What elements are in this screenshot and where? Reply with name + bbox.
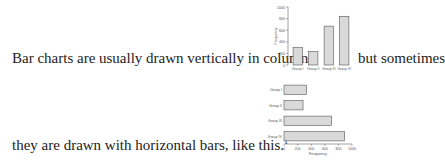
bar	[284, 116, 332, 125]
vertical-bar-chart-svg: 02004006008001000FrequencyGroup IGroup I…	[272, 2, 352, 74]
bar	[284, 101, 303, 110]
y-axis-label: Frequency	[274, 27, 278, 44]
x-tick-label: 200	[295, 147, 301, 151]
x-tick-label: 0	[283, 147, 285, 151]
paragraph-line-1-end: but sometimes	[358, 50, 445, 67]
y-tick-label: Group III	[268, 119, 282, 123]
y-tick-label: 200	[279, 52, 285, 56]
x-tick-label: 1000	[348, 147, 356, 151]
x-tick-label: 800	[335, 147, 341, 151]
x-axis-label: Frequency	[309, 152, 327, 156]
bar	[340, 16, 349, 65]
bar	[284, 132, 345, 141]
x-tick-label: Group IV	[337, 67, 351, 71]
bar	[293, 48, 302, 65]
paragraph-line-2: they are drawn with horizontal bars, lik…	[12, 137, 288, 154]
bar	[284, 85, 306, 94]
y-tick-label: 0	[283, 64, 285, 68]
y-tick-label: Group I	[270, 88, 282, 92]
y-tick-label: 600	[279, 29, 285, 33]
horizontal-bar-chart: 02004006008001000FrequencyGroup IGroup I…	[262, 78, 357, 156]
x-tick-label: Group I	[292, 67, 303, 71]
x-tick-label: 400	[308, 147, 314, 151]
x-tick-label: Group II	[307, 67, 319, 71]
horizontal-bar-chart-svg: 02004006008001000FrequencyGroup IGroup I…	[262, 78, 357, 156]
y-tick-label: 800	[279, 17, 285, 21]
bar	[309, 52, 318, 65]
vertical-bar-chart: 02004006008001000FrequencyGroup IGroup I…	[272, 2, 352, 74]
y-tick-label: Group II	[269, 104, 282, 108]
y-tick-label: Group IV	[268, 135, 283, 139]
x-tick-label: 600	[322, 147, 328, 151]
x-tick-label: Group III	[322, 67, 335, 71]
y-tick-label: 400	[279, 40, 285, 44]
paragraph-line-2-text: they are drawn with horizontal bars, lik…	[12, 137, 284, 153]
bar	[324, 26, 333, 65]
y-tick-label: 1000	[277, 6, 285, 10]
